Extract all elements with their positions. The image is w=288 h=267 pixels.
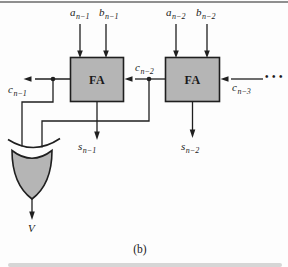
label-c-n-2: cn−2 [135,62,154,74]
label-b-n-1-sub: n−1 [105,12,118,21]
label-b-n-1: bn−1 [99,7,118,19]
label-c-n-3: cn−3 [232,82,251,94]
arrowhead-s-n-1 [94,132,100,141]
label-a-n-1-sub: n−1 [76,12,89,21]
label-overflow-v-base: V [28,222,35,234]
xor-input-curve [8,139,60,148]
label-b-n-2: bn−2 [196,7,215,19]
ellipsis-dots: ••• [265,72,286,82]
label-a-n-2: an−2 [166,7,185,19]
bottom-band [8,263,282,267]
label-s-n-2: sn−2 [181,141,199,153]
label-s-n-1-base: s [78,140,82,152]
label-s-n-1-sub: n−1 [83,146,96,155]
label-s-n-1: sn−1 [78,141,96,153]
label-b-n-2-sub: n−2 [202,12,215,21]
label-a-n-1-base: a [70,6,76,18]
label-a-n-2-base: a [166,6,172,18]
circuit-svg [0,0,288,267]
label-a-n-1: an−1 [70,7,89,19]
label-c-n-3-sub: n−3 [237,87,250,96]
full-adder-overflow-diagram: an−1 bn−1 an−2 bn−2 cn−1 cn−2 cn−3 sn−1 … [0,0,288,267]
label-overflow-v: V [28,223,35,234]
arrowhead-overflow-v [29,212,35,221]
arrowhead-s-n-2 [190,130,196,139]
label-s-n-2-sub: n−2 [186,146,199,155]
xor-gate [12,151,52,200]
arrowhead-c-n-2 [125,76,133,82]
figure-caption: (b) [122,243,158,255]
fa1-label: FA [71,74,124,86]
label-c-n-1-sub: n−1 [13,89,26,98]
label-c-n-2-sub: n−2 [140,67,153,76]
label-s-n-2-base: s [181,140,185,152]
label-b-n-2-base: b [196,6,202,18]
label-c-n-1: cn−1 [8,84,27,96]
arrowhead-c-n-3 [221,76,229,82]
label-a-n-2-sub: n−2 [172,12,185,21]
arrowhead-c-n-1 [24,76,32,82]
fa2-label: FA [166,74,219,86]
label-b-n-1-base: b [99,6,105,18]
